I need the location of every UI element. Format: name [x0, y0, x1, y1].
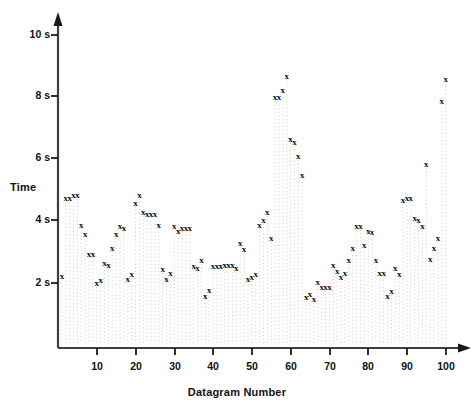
- x-axis-tick-label: 80: [348, 360, 388, 372]
- data-point-marker: x: [347, 255, 352, 265]
- x-axis-tick-label: 20: [116, 360, 156, 372]
- data-point-marker: x: [362, 240, 367, 250]
- plot-canvas: xxxxxxxxxxxxxxxxxxxxxxxxxxxxxxxxxxxxxxxx…: [0, 0, 474, 412]
- data-point-marker: x: [199, 255, 204, 265]
- data-point-marker: x: [122, 223, 127, 233]
- data-point-marker: x: [350, 243, 355, 253]
- data-point-marker: x: [60, 271, 65, 281]
- data-point-marker: x: [75, 190, 80, 200]
- y-axis-tick-label: 8 s: [6, 89, 50, 101]
- data-point-marker: x: [284, 71, 289, 81]
- data-point-marker: x: [397, 269, 402, 279]
- x-axis-tick-label: 30: [155, 360, 195, 372]
- x-axis-arrowhead: [458, 344, 471, 353]
- x-axis-tick-label: 90: [387, 360, 427, 372]
- data-point-marker: x: [168, 268, 173, 278]
- y-axis-arrowhead: [54, 12, 63, 26]
- x-axis: [58, 344, 471, 356]
- x-axis-tick-label: 10: [77, 360, 117, 372]
- data-point-marker: x: [242, 244, 247, 254]
- data-point-marker: x: [153, 209, 158, 219]
- data-point-marker: x: [91, 249, 96, 259]
- data-point-marker: x: [370, 227, 375, 237]
- data-point-marker: x: [110, 243, 115, 253]
- data-point-marker: x: [157, 220, 162, 230]
- data-point-marker: x: [188, 223, 193, 233]
- data-point-marker: x: [292, 137, 297, 147]
- data-point-marker: x: [432, 243, 437, 253]
- y-axis-tick-label: 2 s: [6, 276, 50, 288]
- x-axis-tick-label: 50: [232, 360, 272, 372]
- y-axis-title: Time: [10, 181, 36, 193]
- data-point-marker: x: [381, 268, 386, 278]
- data-point-marker: x: [327, 282, 332, 292]
- data-point-marker: x: [436, 233, 441, 243]
- data-point-marker: x: [312, 294, 317, 304]
- axes-group: [51, 12, 471, 355]
- data-point-marker: x: [374, 255, 379, 265]
- data-point-marker: x: [296, 151, 301, 161]
- data-point-marker: x: [207, 285, 212, 295]
- x-axis-tick-label: 70: [310, 360, 350, 372]
- data-point-marker: x: [409, 193, 414, 203]
- data-point-marker: x: [420, 221, 425, 231]
- droplines-group: [62, 79, 446, 343]
- data-point-marker: x: [300, 170, 305, 180]
- data-point-marker: x: [428, 254, 433, 264]
- data-point-marker: x: [443, 74, 448, 84]
- x-axis-tick-label: 100: [426, 360, 466, 372]
- data-point-marker: x: [253, 269, 258, 279]
- chart-figure: xxxxxxxxxxxxxxxxxxxxxxxxxxxxxxxxxxxxxxxx…: [0, 0, 474, 412]
- data-point-marker: x: [106, 260, 111, 270]
- y-axis-tick-label: 10 s: [6, 28, 50, 40]
- data-point-marker: x: [234, 263, 239, 273]
- data-point-marker: x: [98, 275, 103, 285]
- data-point-marker: x: [424, 159, 429, 169]
- data-point-marker: x: [358, 221, 363, 231]
- y-axis-tick-label: 4 s: [6, 213, 50, 225]
- data-markers-group: xxxxxxxxxxxxxxxxxxxxxxxxxxxxxxxxxxxxxxxx…: [60, 71, 449, 304]
- data-point-marker: x: [440, 96, 445, 106]
- data-point-marker: x: [269, 233, 274, 243]
- data-point-marker: x: [137, 190, 142, 200]
- data-point-marker: x: [389, 286, 394, 296]
- data-point-marker: x: [129, 269, 134, 279]
- data-point-marker: x: [265, 207, 270, 217]
- data-point-marker: x: [83, 229, 88, 239]
- data-point-marker: x: [343, 268, 348, 278]
- y-axis-tick-label: 6 s: [6, 151, 50, 163]
- x-axis-tick-label: 60: [271, 360, 311, 372]
- x-axis-tick-label: 40: [193, 360, 233, 372]
- y-axis: [51, 12, 63, 348]
- data-point-marker: x: [281, 85, 286, 95]
- x-axis-title: Datagram Number: [0, 386, 474, 398]
